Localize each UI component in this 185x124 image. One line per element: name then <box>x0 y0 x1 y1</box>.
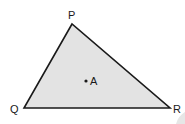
vertex-label-q: Q <box>10 104 19 115</box>
point-label-a: A <box>90 76 97 87</box>
vertex-label-p: P <box>68 10 75 21</box>
triangle-pqr <box>24 24 170 108</box>
point-a-dot <box>84 79 87 82</box>
vertex-label-r: R <box>173 104 181 115</box>
triangle-diagram <box>0 0 185 124</box>
